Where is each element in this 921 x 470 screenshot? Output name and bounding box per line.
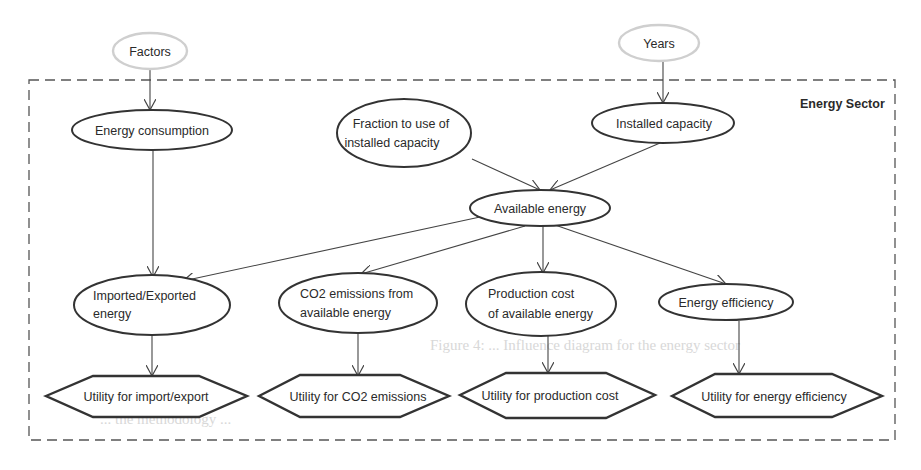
node-energy-efficiency-label: Energy efficiency [679,296,775,310]
node-production-cost: Production cost of available energy [466,272,616,336]
node-energy-consumption: Energy consumption [72,110,232,150]
node-fraction-installed-capacity: Fraction to use of installed capacity [337,99,471,167]
node-co2-emissions: CO2 emissions from available energy [279,273,437,333]
node-energy-efficiency: Energy efficiency [659,284,793,320]
utility-production-label: Utility for production cost [482,389,619,403]
node-imported-line1: Imported/Exported [93,289,196,303]
bleed-caption: Figure 4: ... Influence diagram for the … [430,337,740,353]
influence-diagram: Figure 4: ... Influence diagram for the … [0,0,921,470]
node-factors: Factors [113,33,187,69]
node-imported-line2: energy [93,307,132,321]
node-co2-line2: available energy [300,306,392,320]
edge-available-co2 [361,226,525,274]
edge-installed-available [550,143,660,190]
node-fraction-line1: Fraction to use of [353,117,450,131]
utility-efficiency-label: Utility for energy efficiency [701,390,847,404]
utility-co2: Utility for CO2 emissions [259,375,449,417]
utility-co2-label: Utility for CO2 emissions [290,390,427,404]
node-available-energy: Available energy [470,190,610,226]
node-energy-consumption-label: Energy consumption [95,124,209,138]
node-factors-label: Factors [129,45,171,59]
utility-import-export-label: Utility for import/export [83,390,209,404]
edge-available-efficiency [555,225,726,284]
node-installed-capacity: Installed capacity [592,103,734,143]
edge-fraction-available [472,159,540,190]
energy-sector-label: Energy Sector [800,97,885,111]
node-production-line2: of available energy [488,307,594,321]
node-co2-line1: CO2 emissions from [300,287,413,301]
edge-available-imported [183,217,480,281]
node-production-line1: Production cost [488,287,575,301]
node-available-energy-label: Available energy [494,202,587,216]
node-fraction-line2: installed capacity [344,136,440,150]
node-years-label: Years [643,37,675,51]
node-years: Years [619,25,699,61]
node-imported-exported: Imported/Exported energy [74,275,230,335]
node-installed-capacity-label: Installed capacity [616,117,713,131]
utility-production: Utility for production cost [460,373,655,418]
utility-efficiency: Utility for energy efficiency [672,374,882,417]
